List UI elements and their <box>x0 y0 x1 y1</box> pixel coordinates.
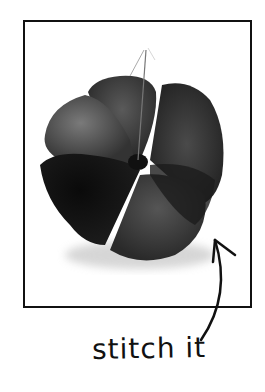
flower-petals <box>40 76 224 261</box>
caption-text: stitch it <box>92 331 207 366</box>
